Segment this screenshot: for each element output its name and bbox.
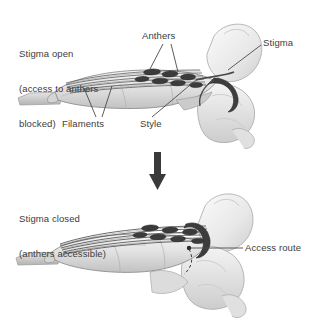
top-caption-line-2: (access to anthers xyxy=(19,83,98,95)
bottom-panel-caption: Stigma closed (anthers accessible) xyxy=(19,189,106,283)
top-panel-caption: Stigma open (access to anthers blocked) xyxy=(19,24,98,154)
label-access-route: Access route xyxy=(245,242,301,254)
label-stigma-top: Stigma xyxy=(263,37,293,49)
top-caption-line-1: Stigma open xyxy=(19,48,98,60)
label-style: Style xyxy=(140,118,162,130)
bottom-caption-line-2: (anthers accessible) xyxy=(19,248,106,260)
label-filaments: Filaments xyxy=(62,118,104,130)
down-arrow-icon xyxy=(149,152,166,190)
label-anthers: Anthers xyxy=(142,30,175,42)
bottom-caption-line-1: Stigma closed xyxy=(19,213,106,225)
botanical-diagram: Stigma open (access to anthers blocked) … xyxy=(0,0,316,334)
